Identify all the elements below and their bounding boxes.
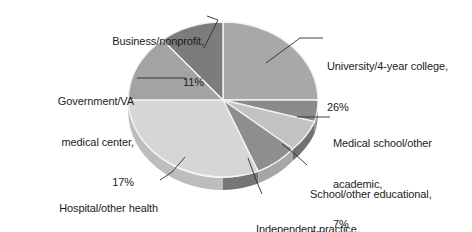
label-line-1: Medical school/other (333, 137, 471, 151)
pie-chart-figure: Business/nonprofit, 11% University/4-yea… (0, 0, 472, 232)
label-line-2: medical center, (6, 136, 134, 150)
label-line-1: University/4-year college, (327, 60, 472, 74)
label-independent-practice: Independent practice, 6% (256, 196, 406, 232)
slice-university (223, 22, 318, 100)
label-line-1: Business/nonprofit, (62, 35, 204, 49)
label-hospital-other-health-service: Hospital/other health service, 25% (18, 175, 158, 232)
label-line-1: Independent practice, (256, 223, 406, 232)
label-line-1: Government/VA (6, 95, 134, 109)
label-line-1: Hospital/other health (18, 202, 158, 216)
